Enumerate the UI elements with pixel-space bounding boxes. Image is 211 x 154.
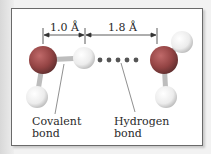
hydrogen-atom [26,86,48,108]
covalent-leader [55,64,64,114]
covalent-length-label: 1.0 Å [50,22,79,34]
hydrogen-atom [171,31,193,53]
covalent-bond-label: Covalent bond [32,116,81,140]
hydrogen-bond-dots [98,58,139,63]
hbond-length-label: 1.8 Å [108,22,137,34]
hydrogen-leader [121,63,135,112]
hydrogen-bond-label: Hydrogen bond [114,116,169,140]
hydrogen-atom [73,47,95,69]
hydrogen-atom [155,86,177,108]
oxygen-atom [29,46,57,74]
oxygen-atom [150,46,178,74]
